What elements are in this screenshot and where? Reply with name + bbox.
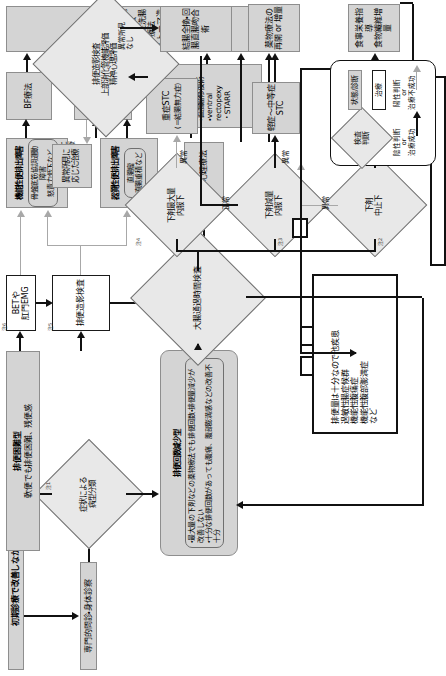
legend-arrow-positive-line [416,72,417,90]
edge-defeco-to-functional [47,217,48,246]
label-no-findings: 異常所見 なし [118,22,134,50]
edge-feedback-long [422,298,424,506]
node-colectomy: 結腸全摘・回腸直腸吻合術 [160,6,232,52]
arrow-severe-to-further [128,73,135,81]
arrow-further-to-colectomy [152,24,159,32]
node-stc-mild: 軽症～中等症 STC [252,82,300,134]
node-difficult-defecation-type: 排便困難型 軟便でも排便困難、残便感 [6,351,40,551]
edge-functional-to-bf [25,126,27,138]
edge-bus-to-max [176,239,178,251]
edge-surgery-to-irrigation [206,60,208,64]
reduced-frequency-desc: ・最大量の下剤などの薬物療法でも排便回数・排便量減少が改善しない ・十分な排便回… [185,358,224,548]
edge-entry-to-exam [24,615,72,617]
edge-defeco-riser-b [81,245,127,246]
arrow-bet-to-functional [17,210,25,217]
note-3-marker: 注3 [276,238,283,246]
note-1-marker: 注1 [44,482,51,490]
arrow-entry-to-exam [72,612,79,620]
organic-outlet-title: 器質性便排出障害 [112,146,121,200]
legend-negative-label: 陰性判断 or 治療成功 [394,128,416,156]
edge-class-to-reduced [126,493,154,495]
edge-defeco-to-organic [126,217,127,246]
legend-treatment-shape: 治療 [372,70,386,110]
node-abnormal-findings-treat: 異常所見に 応じた治療 [52,144,92,188]
arrow-feedback-to-reduced [236,501,243,509]
legend-arrow-negative-head [413,111,421,118]
colonic-transit-label: 大腸通過時間検査 [193,266,202,330]
reduced-frequency-title: 排便回数減少型 [174,358,183,548]
arrow-ntc-to-diet [371,53,379,60]
legend-test-shape: 検査 判断 [340,116,384,160]
node-diet-guidance: 食事栄養指導 食物繊維増量 [348,4,400,52]
arrow-organic-to-drug [123,119,131,126]
legend-state-shape: 状態/診断 [348,70,362,110]
edge-max-to-severe [176,142,177,168]
node-reduced-frequency-group: 排便回数減少型 ・最大量の下剤などの薬物療法でも排便回数・排便量減少が改善しない… [160,350,238,556]
edge-other-feed-v [300,352,356,354]
arrow-bet-to-defeco [46,299,53,307]
legend-positive-label: 陽性判断 or 治療不成功 [394,75,416,110]
arrow-reduced-to-transit [194,343,202,350]
node-bet-emg: BETや 肛門EMG [6,275,36,331]
symptom-classification-label: 症状による 病型分類 [80,477,98,512]
edge-bus-to-stop [374,239,376,251]
edge-diet-loop-riser [400,2,413,4]
label-reduced-abnormal: 異常 [282,150,290,164]
edge-reduced-norm-h [200,56,202,206]
note-5-marker: 注5 [46,323,53,331]
edge-difficult-to-defeco [80,338,82,351]
arrow-max-to-severe [173,135,181,142]
note-2-marker: 注2 [376,238,383,246]
edge-reduced-to-mild [274,142,276,168]
label-reduced-normal: 正常 [222,196,230,210]
arrow-to-other-diseases [350,349,357,357]
arrow-further-to-abn-treat [83,137,91,144]
note-4-marker: 注4 [134,238,141,246]
laxative-max-label: 下剤最大量 内服下 [168,188,186,223]
edge-psych-to-irrigation [240,60,242,142]
difficult-type-title: 排便困難型 [13,432,22,471]
edge-organic-to-drug [126,126,128,138]
node-defecography: 排便造影検査 [52,275,110,331]
label-stop-abnormal: 異常 [322,196,330,210]
arrow-mild-to-resume [271,53,279,60]
legend-test-label: 検査 判断 [354,131,371,145]
arrow-psych-to-irrigation [237,53,245,60]
stc-severe-sub: (＝結腸無力症) [174,83,182,129]
edge-mild-to-resume [274,60,276,82]
edge-bet-to-functional [20,217,21,275]
node-specialist-exam: 専門的問診・身体診察 [80,562,97,670]
arrow-difficult-to-bet [16,331,24,338]
arrow-surgery-to-irrigation [203,53,211,60]
functional-outlet-title: 機能性便排出障害 [16,146,25,200]
edge-bf-to-irrigation [26,60,28,72]
laxative-stop-label: 下剤 中止下 [366,195,384,216]
flowchart-canvas: 初期診療で改善しなかった慢性便秘症患者 専門的問診・身体診察 症状による 病型分… [0,0,446,676]
edge-feedback-up [240,504,422,506]
edge-further-colectomy-seg [120,27,152,29]
node-laxative-stop: 下剤 中止下 [338,168,412,242]
label-max-abnormal: 異常 [180,150,188,164]
edge-feedback-riser [246,296,422,298]
further-tests-label: 排便造影検査 上部消化管機能評価 精神心理評価 [93,33,120,96]
edge-bus-to-reduced [274,239,276,251]
difficult-type-desc: 軟便でも排便困難、残便感 [24,404,33,498]
node-symptom-classification: 症状による 病型分類 [50,455,128,533]
edge-reduced-norm-up [200,204,238,206]
arrow-difficult-to-defeco [77,331,85,338]
note-6-marker: 注6 [0,323,7,331]
legend-arrow-positive-head [413,65,421,72]
node-drug-resume: 薬物療法の 再開 or 増量 [248,4,300,52]
node-bf-therapy: BF療法 [6,72,52,120]
edge-transit-bus-v [176,250,376,252]
legend-arrow-negative-line [416,118,418,136]
edge-difficult-to-bet [19,338,21,351]
arrow-reduced-to-mild [271,135,279,142]
arrow-functional-to-bf [22,119,30,126]
arrow-defeco-to-functional [44,210,52,217]
stc-severe-title: 重症STC [162,91,171,121]
arrow-class-to-reduced [152,490,159,498]
edge-stop-abn-up [300,205,338,206]
laxative-reduced-label: 下剤減量 内服下 [266,191,284,219]
edge-other-feed-h [300,68,302,354]
